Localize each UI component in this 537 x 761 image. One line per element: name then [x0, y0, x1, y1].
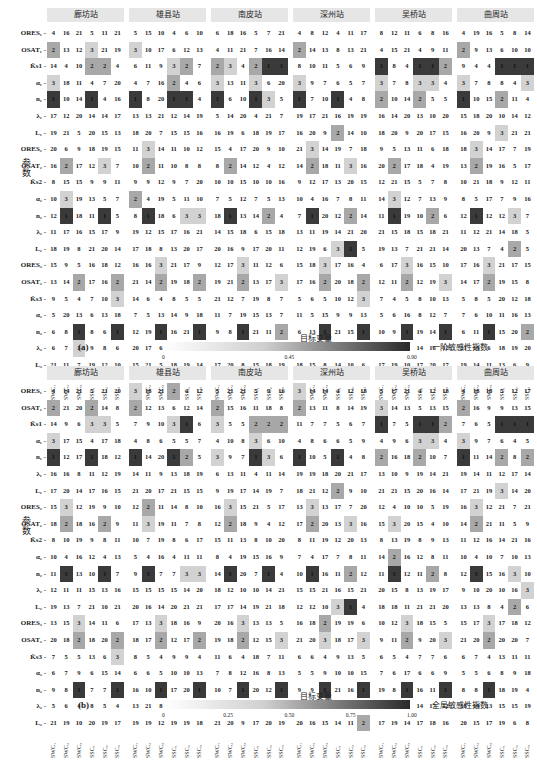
heatmap-cell: 7: [508, 141, 521, 158]
row-label: ORES₃ -: [0, 615, 46, 632]
heatmap-cell: 12: [357, 566, 370, 583]
colorbar-tick: 0.50: [285, 712, 295, 718]
heatmap-cell: 10: [413, 499, 426, 516]
heatmap-cell: 13: [319, 499, 332, 516]
heatmap-cell: 11: [224, 532, 237, 549]
heatmap-cell: 13: [457, 158, 470, 175]
x-tick-label: SWC₁: [132, 731, 138, 761]
heatmap-cell: 1: [470, 208, 483, 225]
heatmap-cell: 20: [47, 632, 60, 649]
heatmap-cell: 18: [237, 224, 250, 241]
heatmap-cell: 5: [344, 75, 357, 92]
heatmap-cell: 7: [155, 566, 168, 583]
heatmap-cell: 1: [293, 91, 306, 108]
heatmap-cell: 5: [426, 499, 439, 516]
heatmap-cell: 20: [262, 715, 275, 732]
heatmap-cell: 13: [85, 191, 98, 208]
heatmap-cell: 20: [319, 208, 332, 225]
heatmap-cell: 6: [47, 324, 60, 341]
heatmap-cell: 21: [457, 632, 470, 649]
heatmap-cell: 8: [331, 42, 344, 59]
heatmap-cell: 13: [111, 549, 124, 566]
heatmap-cell: 7: [331, 549, 344, 566]
heatmap-cell: 8: [180, 499, 193, 516]
heatmap-cell: 11: [319, 58, 332, 75]
heatmap-cell: 2: [483, 274, 496, 291]
heatmap-cell: 18: [331, 632, 344, 649]
heatmap-cell: 3: [375, 400, 388, 417]
heatmap-cell: 19: [262, 483, 275, 500]
heatmap-cell: 5: [211, 108, 224, 125]
x-tick-label: SSC₂: [184, 731, 190, 761]
heatmap-cell: 14: [249, 483, 262, 500]
x-tick-labels: SWC₁SWC₂SWC₃SSC₁SSC₂SSC₃: [457, 731, 534, 761]
heatmap-cell: 2: [262, 208, 275, 225]
heatmap-cell: 1: [167, 449, 180, 466]
heatmap-cell: 6: [142, 665, 155, 682]
heatmap-cell: 21: [357, 42, 370, 59]
heatmap-cell: 14: [275, 466, 288, 483]
heatmap-cell: 19: [224, 483, 237, 500]
heatmap-cell: 14: [111, 665, 124, 682]
heatmap-cell: 1: [293, 449, 306, 466]
colorbar-title: 一阶敏感性指数: [432, 341, 488, 352]
heatmap-cell: 2: [457, 42, 470, 59]
heatmap-cell: 1: [167, 91, 180, 108]
heatmap-cell: 19: [60, 241, 73, 258]
heatmap-cell: 8: [293, 58, 306, 75]
heatmap-cell: 12: [306, 599, 319, 616]
heatmap-cell: 20: [155, 449, 168, 466]
heatmap-cell: 20: [508, 324, 521, 341]
heatmap-cell: 20: [401, 516, 414, 533]
heatmap-cell: 15: [357, 665, 370, 682]
heatmap-cell: 7: [275, 483, 288, 500]
heatmap-cell: 18: [306, 615, 319, 632]
heatmap-cell: 5: [85, 383, 98, 400]
heatmap-cell: 16: [401, 307, 414, 324]
heatmap-cell: 1: [237, 324, 250, 341]
heatmap-cell: 13: [521, 549, 534, 566]
heatmap-cell: 1: [331, 91, 344, 108]
heatmap-cell: 2: [357, 715, 370, 732]
heatmap-cell: 18: [193, 307, 206, 324]
heatmap-cell: 20: [98, 241, 111, 258]
heatmap-cell: 12: [167, 108, 180, 125]
heatmap-cell: 1: [60, 208, 73, 225]
heatmap-cell: 10: [262, 532, 275, 549]
heatmap-cell: 2: [457, 400, 470, 417]
heatmap-cell: 18: [388, 599, 401, 616]
heatmap-cell: 11: [470, 324, 483, 341]
heatmap-cell: 11: [224, 42, 237, 59]
heatmap-cell: 19: [401, 532, 414, 549]
heatmap-cell: 13: [193, 665, 206, 682]
heatmap-cell: 3: [470, 141, 483, 158]
heatmap-cell: 5: [73, 649, 86, 666]
heatmap-cell: 21: [47, 715, 60, 732]
heatmap-cell: 19: [439, 158, 452, 175]
heatmap-cell: 9: [470, 433, 483, 450]
heatmap-cell: 7: [60, 340, 73, 357]
heatmap-cell: 3: [319, 257, 332, 274]
heatmap-cell: 3: [426, 75, 439, 92]
heatmap-cell: 13: [262, 615, 275, 632]
heatmap-cell: 15: [426, 257, 439, 274]
heatmap-cell: 12: [483, 208, 496, 225]
x-tick-label: SSC₃: [114, 731, 120, 761]
heatmap-cell: 5: [155, 665, 168, 682]
heatmap-cell: 4: [331, 383, 344, 400]
heatmap-cell: 8: [508, 449, 521, 466]
heatmap-cell: 8: [331, 400, 344, 417]
heatmap-grid: 4812411172141381321810115693976571710148…: [293, 25, 370, 373]
heatmap-cell: 7: [275, 307, 288, 324]
heatmap-cell: 20: [521, 483, 534, 500]
heatmap-cell: 16: [224, 615, 237, 632]
heatmap-cell: 18: [98, 449, 111, 466]
heatmap-cell: 4: [60, 58, 73, 75]
heatmap-cell: 19: [98, 715, 111, 732]
heatmap-cell: 14: [388, 108, 401, 125]
heatmap-cell: 14: [129, 466, 142, 483]
heatmap-cell: 15: [211, 141, 224, 158]
heatmap-cell: 5: [483, 416, 496, 433]
heatmap-cell: 19: [224, 125, 237, 142]
heatmap-cell: 21: [211, 291, 224, 308]
